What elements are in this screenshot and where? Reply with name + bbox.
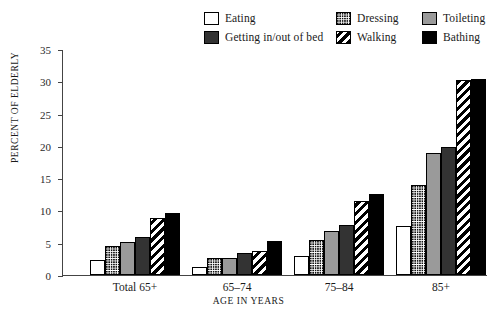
x-axis-group-label-total-65: Total 65+ xyxy=(113,281,157,293)
bar-group-85: 85+ xyxy=(396,49,486,275)
legend-item-toileting: Toileting xyxy=(422,10,494,27)
bar-walking-65-74 xyxy=(252,251,267,275)
legend-row: Getting in/out of bed Walking Bathing xyxy=(204,29,494,46)
legend-item-bathing: Bathing xyxy=(422,29,494,46)
y-axis-tick: 20 xyxy=(58,147,62,148)
bar-dressing-total-65 xyxy=(105,246,120,275)
bar-dressing-85 xyxy=(411,185,426,275)
bar-toileting-total-65 xyxy=(120,242,135,275)
y-axis-tick-label: 35 xyxy=(40,45,51,56)
legend-swatch-toileting-icon xyxy=(422,12,437,25)
y-axis-tick-label: 0 xyxy=(46,271,52,282)
bar-group-bars xyxy=(90,49,180,275)
bar-bathing-85 xyxy=(471,79,486,275)
bar-walking-85 xyxy=(456,80,471,275)
bar-eating-85 xyxy=(396,226,411,275)
bar-group-75-84: 75–84 xyxy=(294,49,384,275)
x-axis-line xyxy=(62,275,487,276)
y-axis-tick: 15 xyxy=(58,179,62,180)
y-axis-tick: 10 xyxy=(58,211,62,212)
y-axis-tick-label: 30 xyxy=(40,77,51,88)
y-axis-title: PERCENT OF ELDERLY xyxy=(10,52,20,163)
legend-label-walking: Walking xyxy=(357,31,396,44)
legend-swatch-eating-icon xyxy=(204,12,219,25)
bar-dressing-75-84 xyxy=(309,240,324,275)
y-axis-tick-label: 20 xyxy=(40,141,51,152)
y-axis-tick: 35 xyxy=(58,50,62,51)
bar-eating-total-65 xyxy=(90,260,105,275)
bar-toileting-75-84 xyxy=(324,231,339,275)
bar-bathing-total-65 xyxy=(165,213,180,275)
legend-swatch-bathing-icon xyxy=(422,31,437,44)
bar-group-bars xyxy=(294,49,384,275)
y-axis-tick-label: 5 xyxy=(46,238,52,249)
x-axis-group-label-65-74: 65–74 xyxy=(223,281,252,293)
legend-item-dressing: Dressing xyxy=(336,10,422,27)
x-axis-group-label-85: 85+ xyxy=(432,281,450,293)
bar-chart: Eating Dressing Toileting Getting in/out… xyxy=(0,0,497,323)
bar-bathing-75-84 xyxy=(369,194,384,275)
bar-walking-75-84 xyxy=(354,201,369,275)
y-axis-tick-label: 10 xyxy=(40,206,51,217)
plot-area: 05101520253035 Total 65+65–7475–8485+ xyxy=(62,50,487,276)
bar-toileting-85 xyxy=(426,153,441,275)
legend-swatch-bed-icon xyxy=(204,31,219,44)
bar-getting-in-out-of-bed-75-84 xyxy=(339,225,354,275)
x-axis-group-label-75-84: 75–84 xyxy=(325,281,354,293)
y-axis-tick: 0 xyxy=(58,276,62,277)
bar-eating-65-74 xyxy=(192,267,207,275)
legend-label-eating: Eating xyxy=(225,12,256,25)
y-axis-tick: 30 xyxy=(58,82,62,83)
bar-group-bars xyxy=(396,49,486,275)
bar-getting-in-out-of-bed-85 xyxy=(441,147,456,275)
legend-label-getting-in-out-of-bed: Getting in/out of bed xyxy=(225,31,323,44)
y-axis-line xyxy=(62,50,63,277)
y-axis-tick: 25 xyxy=(58,115,62,116)
bar-getting-in-out-of-bed-total-65 xyxy=(135,237,150,275)
bar-getting-in-out-of-bed-65-74 xyxy=(237,253,252,275)
legend-item-eating: Eating xyxy=(204,10,336,27)
legend-swatch-walking-icon xyxy=(336,31,351,44)
y-axis-tick: 5 xyxy=(58,244,62,245)
bar-group-bars xyxy=(192,49,282,275)
legend-item-walking: Walking xyxy=(336,29,422,46)
legend-swatch-dressing-icon xyxy=(336,12,351,25)
bar-dressing-65-74 xyxy=(207,258,222,275)
bar-group-total-65: Total 65+ xyxy=(90,49,180,275)
x-axis-title: AGE IN YEARS xyxy=(0,296,497,306)
legend-label-dressing: Dressing xyxy=(357,12,399,25)
bar-group-65-74: 65–74 xyxy=(192,49,282,275)
legend-row: Eating Dressing Toileting xyxy=(204,10,494,27)
chart-legend: Eating Dressing Toileting Getting in/out… xyxy=(204,10,494,50)
bar-walking-total-65 xyxy=(150,218,165,275)
bar-toileting-65-74 xyxy=(222,258,237,275)
bar-bathing-65-74 xyxy=(267,241,282,275)
y-axis-tick-label: 15 xyxy=(40,174,51,185)
y-axis-tick-label: 25 xyxy=(40,109,51,120)
legend-item-getting-in-out-of-bed: Getting in/out of bed xyxy=(204,29,336,46)
bar-eating-75-84 xyxy=(294,256,309,275)
legend-label-toileting: Toileting xyxy=(443,12,485,25)
legend-label-bathing: Bathing xyxy=(443,31,480,44)
